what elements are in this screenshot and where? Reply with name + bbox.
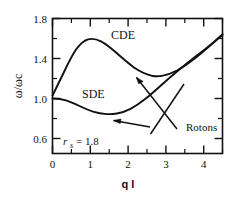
plot-frame xyxy=(53,19,223,154)
x-tick-label-4: 4 xyxy=(201,158,207,170)
figure-container: 1.8 1.4 1.0 0.6 0 1 2 3 4 q l ω/ωc CDE S… xyxy=(0,0,247,204)
parameter-subscript: s xyxy=(70,141,73,150)
y-tick-label-2: 1.0 xyxy=(33,93,47,105)
series-line-cde xyxy=(53,35,223,96)
x-tick-label-1: 1 xyxy=(88,158,94,170)
parameter-value: = 1.8 xyxy=(76,135,99,147)
rotons-annotation-label: Rotons xyxy=(186,121,217,133)
rotons-arrow-to-sde-min xyxy=(114,119,151,127)
x-tick-label-2: 2 xyxy=(125,158,131,170)
y-tick-label-3: 0.6 xyxy=(33,133,47,145)
y-axis-label: ω/ωc xyxy=(11,74,25,98)
y-tick-label-0: 1.8 xyxy=(33,13,47,25)
parameter-symbol: r xyxy=(63,135,68,147)
y-axis-label-group: ω/ωc xyxy=(11,74,25,98)
x-tick-label-0: 0 xyxy=(50,158,56,170)
x-tick-label-3: 3 xyxy=(163,158,169,170)
chart-svg: 1.8 1.4 1.0 0.6 0 1 2 3 4 q l ω/ωc CDE S… xyxy=(0,0,247,204)
sde-series-label: SDE xyxy=(82,87,105,101)
top-axis-major-ticks xyxy=(53,19,204,27)
x-axis-label: q l xyxy=(122,178,135,190)
parameter-annotation: r s = 1.8 xyxy=(63,135,99,150)
y-tick-label-1: 1.4 xyxy=(33,53,47,65)
cde-series-label: CDE xyxy=(111,28,135,42)
